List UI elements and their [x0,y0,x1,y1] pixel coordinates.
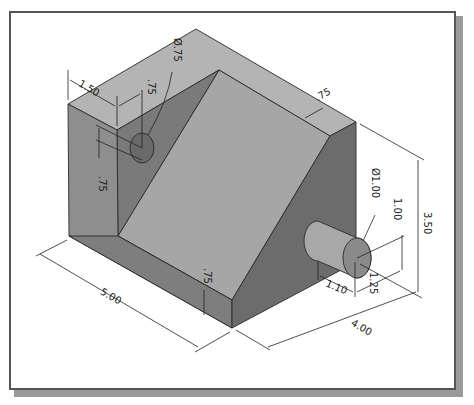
dim-hole-offset-vertical: .75 [97,176,108,192]
dim-boss-length: 1.10 [324,278,349,297]
dim-boss-height: 1.00 [392,198,403,220]
dim-hole-diameter: Ø.75 [172,38,183,62]
isometric-drawing: 1.50 .75 Ø.75 .75 .75 .75 5.00 4.00 3.50… [0,0,474,405]
dim-boss-diameter: Ø1.00 [370,168,381,198]
dim-length: 5.00 [99,286,124,307]
dim-width: 4.00 [349,317,374,338]
dim-base-thickness: .75 [202,268,213,284]
dim-top-thickness: .75 [313,86,332,103]
dim-boss-side: 1.25 [368,272,379,294]
dim-height: 3.50 [422,212,433,234]
dim-hole-offset-wall: .75 [146,79,157,95]
